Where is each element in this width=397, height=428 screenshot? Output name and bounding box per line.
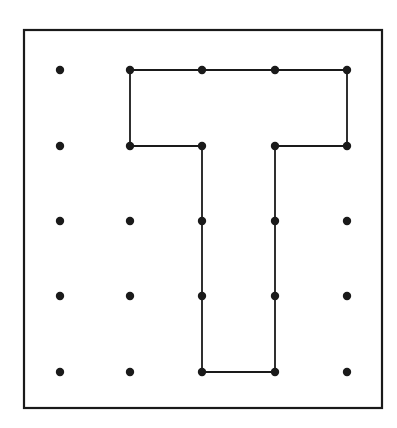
grid-dot [56,142,64,150]
grid-dot [198,66,206,74]
grid-dot [56,368,64,376]
grid-dot [198,142,206,150]
grid-dot [198,368,206,376]
geoboard-figure [0,0,397,428]
grid-dot [271,66,279,74]
grid-dot [126,66,134,74]
grid-dot [343,142,351,150]
grid-dot [271,368,279,376]
grid-dot [343,292,351,300]
grid-dot [126,292,134,300]
grid-dot [126,142,134,150]
grid-dot [271,142,279,150]
grid-dot [56,292,64,300]
grid-dot [56,66,64,74]
grid-dot [343,368,351,376]
grid-dot [271,217,279,225]
grid-dot [56,217,64,225]
grid-dot [126,368,134,376]
t-shape-outline [130,70,347,372]
grid-dot [271,292,279,300]
grid-dot [198,217,206,225]
grid-dot [126,217,134,225]
grid-dots [56,66,351,376]
grid-dot [343,66,351,74]
grid-dot [198,292,206,300]
grid-dot [343,217,351,225]
